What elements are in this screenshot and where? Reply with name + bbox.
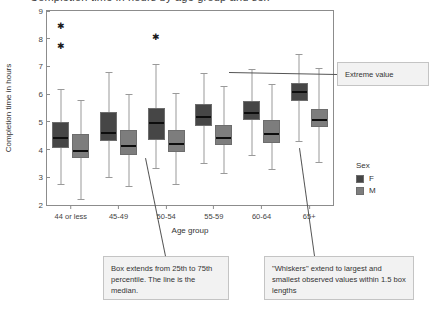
median-line [169,143,184,145]
whisker-cap-lower [153,168,160,169]
x-tick-label: 44 or less [55,205,88,221]
whisker-cap-upper [248,69,255,70]
whisker-cap-upper [105,72,112,73]
median-line [264,133,279,135]
box-plot-m-0 [72,11,89,205]
whisker-upper [156,64,157,108]
whisker-lower [299,101,300,141]
whisker-cap-upper [200,73,207,74]
y-tick-label: 5 [39,117,47,126]
box-iqr [243,101,260,120]
median-line [244,112,259,114]
whisker-cap-lower [173,184,180,185]
whisker-cap-lower [125,186,132,187]
box-iqr [52,122,69,148]
box-plot-f-1 [100,11,117,205]
callout-box-definition: Box extends from 25th to 75th percentile… [103,256,229,300]
whisker-upper [128,94,129,130]
y-tick-label: 3 [39,173,47,182]
whisker-cap-lower [77,199,84,200]
box-iqr [148,108,165,140]
whisker-cap-lower [57,184,64,185]
plot-area: 23456789 44 or less45-4950-5455-5960-646… [46,10,334,206]
whisker-lower [156,140,157,168]
whisker-cap-lower [268,169,275,170]
whisker-cap-upper [296,54,303,55]
box-iqr [291,83,308,101]
median-line [149,122,164,124]
whisker-lower [60,148,61,184]
median-line [196,116,211,118]
callout-extreme-text: Extreme value [345,69,394,80]
boxplot-figure: Completion time in hours by age group an… [0,0,432,311]
box-plot-m-5 [311,11,328,205]
box-iqr [100,112,117,141]
whisker-cap-lower [296,141,303,142]
legend-swatch-icon [356,187,364,195]
x-axis-title: Age group [172,226,209,235]
callout-whisker-text: "Whiskers" extend to largest and smalles… [272,264,406,295]
y-axis-title: Completion time in hours [4,64,13,152]
box-iqr [72,134,89,158]
legend-item-f[interactable]: F [356,174,376,183]
whisker-cap-upper [268,84,275,85]
box-iqr [215,125,232,146]
legend-item-m[interactable]: M [356,186,376,195]
legend-items: FM [356,174,376,195]
median-line [73,150,88,152]
x-tick-label: 50-54 [157,205,176,221]
whisker-upper [176,93,177,130]
y-tick-label: 8 [39,34,47,43]
legend-swatch-icon [356,175,364,183]
box-iqr [263,120,280,142]
whisker-upper [223,86,224,125]
whisker-cap-lower [105,177,112,178]
whisker-cap-lower [200,163,207,164]
whisker-cap-lower [220,173,227,174]
box-iqr [168,130,185,152]
box-plot-m-1 [120,11,137,205]
whisker-lower [251,120,252,155]
whisker-upper [271,84,272,120]
whisker-cap-lower [316,162,323,163]
whisker-upper [203,73,204,103]
whisker-lower [271,143,272,169]
outlier-marker: ✱ [152,33,160,42]
outlier-marker: ✱ [57,41,65,50]
x-tick-label: 55-59 [204,205,223,221]
x-tick-label: 45-49 [109,205,128,221]
whisker-cap-lower [248,155,255,156]
box-plot-m-4 [263,11,280,205]
whisker-lower [319,127,320,162]
box-plot-m-3 [215,11,232,205]
box-iqr [120,130,137,155]
whisker-lower [108,141,109,177]
whisker-cap-upper [77,100,84,101]
legend-item-label: F [369,174,374,183]
median-line [312,119,327,121]
whisker-cap-upper [57,89,64,90]
median-line [292,91,307,93]
callout-whisker-definition: "Whiskers" extend to largest and smalles… [264,256,414,300]
x-tick-label: 60-64 [252,205,271,221]
whisker-upper [251,69,252,101]
whisker-lower [176,152,177,184]
y-tick-label: 9 [39,7,47,16]
callout-extreme-value: Extreme value [337,62,429,86]
whisker-upper [299,54,300,83]
box-plot-m-2 [168,11,185,205]
whisker-cap-upper [125,94,132,95]
box-plot-f-4 [243,11,260,205]
box-iqr [195,104,212,126]
callout-box-text: Box extends from 25th to 75th percentile… [111,264,212,295]
whisker-upper [60,89,61,122]
whisker-lower [223,145,224,173]
median-line [216,137,231,139]
whisker-cap-upper [316,68,323,69]
median-line [121,145,136,147]
whisker-upper [108,72,109,112]
whisker-cap-upper [173,93,180,94]
median-line [101,132,116,134]
legend: Sex FM [356,161,376,198]
box-plot-f-5 [291,11,308,205]
